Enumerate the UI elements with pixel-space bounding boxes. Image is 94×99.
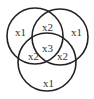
region-center-overlap: x3 [42, 42, 54, 54]
region-left-bottom-overlap: x2 [28, 50, 39, 62]
venn-diagram: x1 x1 x1 x2 x2 x2 x3 [0, 0, 94, 99]
region-top-overlap: x2 [42, 21, 53, 33]
region-right-bottom-overlap: x2 [57, 50, 68, 62]
region-right-only: x1 [71, 26, 82, 38]
region-bottom-only: x1 [43, 77, 54, 89]
region-left-only: x1 [15, 26, 26, 38]
